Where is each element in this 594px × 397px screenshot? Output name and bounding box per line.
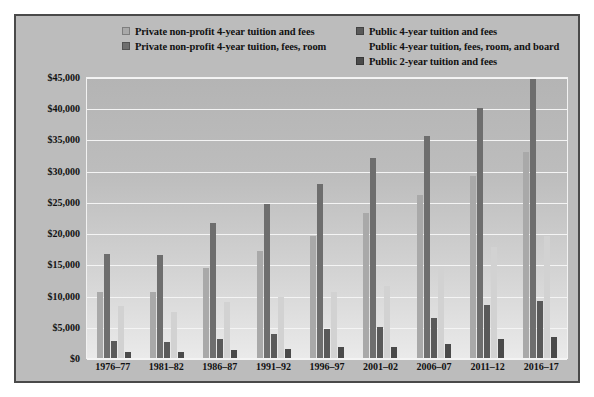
y-axis-tick-label: $30,000: [48, 165, 81, 176]
bar: [285, 349, 291, 358]
bar-group: [462, 78, 513, 358]
bar: [310, 236, 316, 358]
y-axis-tick-label: $35,000: [48, 134, 81, 145]
x-axis-tick-label: 1991–92: [248, 361, 299, 381]
bar: [445, 344, 451, 358]
bar: [324, 329, 330, 358]
bar: [171, 312, 177, 358]
bar: [164, 342, 170, 358]
bar-group: [248, 78, 299, 358]
y-axis: $0$5,000$10,000$15,000$20,000$25,000$30,…: [18, 72, 84, 362]
y-axis-tick-label: $40,000: [48, 103, 81, 114]
bar-group: [302, 78, 353, 358]
bar: [224, 302, 230, 358]
bar: [377, 327, 383, 358]
bar: [150, 292, 156, 358]
bar-group: [355, 78, 406, 358]
x-axis-tick-label: 2006–07: [409, 361, 460, 381]
x-axis-tick-label: 1976–77: [87, 361, 138, 381]
gridline: [87, 359, 567, 360]
bar: [370, 158, 376, 358]
bar: [338, 347, 344, 358]
plot-area: [86, 77, 568, 358]
bar: [257, 251, 263, 358]
bar: [470, 176, 476, 358]
bar: [217, 339, 223, 358]
bar: [391, 347, 397, 358]
y-axis-tick-label: $25,000: [48, 196, 81, 207]
bar: [544, 236, 550, 358]
bar-group: [195, 78, 246, 358]
bar: [523, 152, 529, 358]
x-axis-tick-label: 1996–97: [301, 361, 352, 381]
bar-group: [408, 78, 459, 358]
bar: [384, 286, 390, 358]
x-axis-tick-label: 2016–17: [516, 361, 567, 381]
y-axis-tick-label: $45,000: [48, 72, 81, 83]
x-axis-tick-label: 1981–82: [141, 361, 192, 381]
bar: [431, 318, 437, 358]
y-axis-tick-label: $0: [70, 353, 80, 364]
bar: [331, 292, 337, 358]
bar: [491, 247, 497, 358]
bar-group: [142, 78, 193, 358]
bar-group: [515, 78, 566, 358]
bar: [97, 292, 103, 358]
bar: [271, 334, 277, 358]
bar: [264, 204, 270, 358]
y-axis-tick-label: $5,000: [53, 321, 81, 332]
bar: [203, 268, 209, 358]
bar: [111, 341, 117, 358]
y-axis-tick-label: $10,000: [48, 290, 81, 301]
bar: [157, 255, 163, 358]
bar: [417, 195, 423, 358]
bar-groups: [87, 78, 567, 358]
x-axis-tick-label: 2001–02: [355, 361, 406, 381]
bar: [477, 108, 483, 358]
bar: [363, 213, 369, 358]
bar: [317, 184, 323, 358]
x-axis-tick-label: 2011–12: [462, 361, 513, 381]
bar: [424, 136, 430, 358]
x-axis-line: [86, 358, 568, 359]
bar: [104, 254, 110, 358]
bar: [530, 79, 536, 358]
plot-wrapper: $0$5,000$10,000$15,000$20,000$25,000$30,…: [16, 16, 578, 381]
chart-screenshot: Private non-profit 4-year tuition and fe…: [0, 0, 594, 397]
chart-figure: Private non-profit 4-year tuition and fe…: [14, 14, 580, 383]
y-axis-tick-label: $15,000: [48, 259, 81, 270]
bar: [118, 306, 124, 358]
bar-group: [88, 78, 139, 358]
bar: [551, 337, 557, 358]
bar: [231, 350, 237, 358]
bar: [498, 339, 504, 358]
bar: [210, 223, 216, 358]
bar: [438, 266, 444, 358]
bar: [484, 305, 490, 358]
bar: [278, 297, 284, 358]
y-axis-tick-label: $20,000: [48, 228, 81, 239]
x-axis-tick-label: 1986–87: [194, 361, 245, 381]
bar: [537, 301, 543, 358]
x-axis: 1976–771981–821986–871991–921996–972001–…: [86, 361, 568, 381]
